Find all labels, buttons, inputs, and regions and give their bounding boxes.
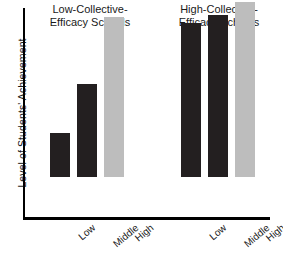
bar-low-group-low <box>50 133 70 177</box>
bar-low-group-middle <box>77 84 97 177</box>
tick-label-high-group-low: Low <box>207 222 228 242</box>
bar-high-group-high <box>235 2 255 177</box>
bar-chart-figure: Low-Collective- Efficacy Schools High-Co… <box>0 0 283 258</box>
bar-high-group-low <box>181 23 201 177</box>
bar-low-group-high <box>104 17 124 177</box>
plot-area <box>0 0 283 218</box>
bar-high-group-middle <box>208 15 228 177</box>
tick-label-low-group-low: Low <box>76 222 97 242</box>
